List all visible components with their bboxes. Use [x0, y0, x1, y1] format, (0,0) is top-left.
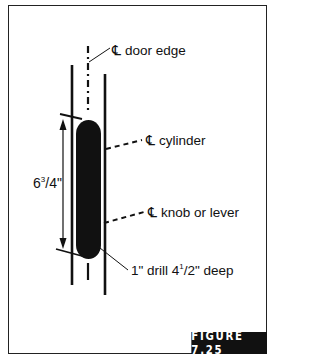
- figure-number-badge: FIGURE 7.25: [191, 332, 267, 354]
- door-edge-label: ℄door edge: [112, 43, 186, 58]
- centerline-icon: ℄: [146, 132, 155, 148]
- cylinder-leader: [106, 140, 142, 149]
- knob-leader: [104, 212, 144, 223]
- arrow-up-icon: [60, 119, 67, 130]
- knob-label: ℄knob or lever: [148, 205, 239, 220]
- dimension-label: 63/4": [33, 176, 62, 190]
- centerline-icon: ℄: [112, 42, 121, 58]
- drill-label: 1" drill 41/2" deep: [131, 263, 234, 277]
- drill-hole: [76, 120, 101, 259]
- door-edge-leader: [89, 48, 110, 62]
- arrow-down-icon: [60, 238, 67, 249]
- centerline-icon: ℄: [148, 204, 157, 220]
- cylinder-label: ℄cylinder: [146, 133, 206, 148]
